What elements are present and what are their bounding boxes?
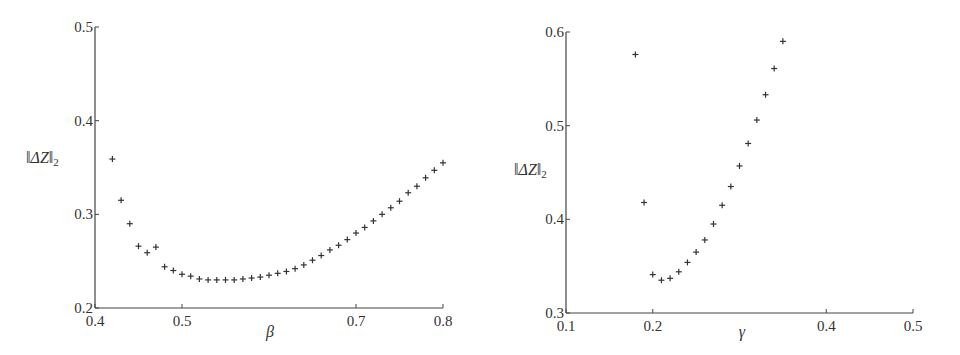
data-point [405,190,411,196]
data-point [362,224,368,230]
y-axis-label-main: ΔZ [518,161,538,178]
data-point [641,199,647,205]
data-point [118,197,124,203]
data-point [658,277,664,283]
y-tick-label: 0.5 [545,118,564,134]
data-point [702,237,708,243]
data-point [397,198,403,204]
y-axis-label-sub: 2 [541,168,547,180]
y-tick-label: 0.4 [74,113,93,129]
data-point [710,221,716,227]
x-tick-label: 0.7 [347,313,366,329]
data-point [632,51,638,57]
data-point [667,275,673,281]
data-point [109,156,115,162]
y-tick-label: 0.4 [545,211,564,227]
data-point [249,275,255,281]
x-axis-label: β [265,323,274,341]
chart-beta: 0.40.50.70.80.20.30.40.5 β ‖ΔZ‖2 [26,19,452,341]
data-point [153,244,159,250]
data-point [754,117,760,123]
data-point [275,270,281,276]
data-point [745,140,751,146]
x-tick-label: 0.4 [817,318,836,334]
data-point [728,184,734,190]
y-axis-label-main: ΔZ [30,149,50,166]
data-point [179,271,185,277]
data-point [188,273,194,279]
data-point [693,249,699,255]
data-point [650,272,656,278]
x-tick-label: 0.2 [643,318,662,334]
data-point [676,269,682,275]
data-point [318,253,324,259]
data-points [109,156,446,283]
data-point [370,218,376,224]
data-point [136,243,142,249]
data-point [162,264,168,270]
data-point [684,259,690,265]
ticks: 0.40.50.70.80.20.30.40.5 [74,19,452,329]
data-point [344,237,350,243]
ticks: 0.10.20.40.50.30.40.50.6 [545,24,922,334]
data-point [170,268,176,274]
y-axis-label: ‖ΔZ‖2 [26,149,59,168]
data-point [771,66,777,72]
y-tick-label: 0.2 [74,300,93,316]
data-point [440,160,446,166]
data-point [240,276,246,282]
data-point [780,38,786,44]
data-point [327,247,333,253]
data-point [423,175,429,181]
data-point [223,277,229,283]
y-tick-label: 0.3 [74,206,93,222]
x-tick-label: 0.5 [904,318,923,334]
data-point [196,276,202,282]
data-point [388,205,394,211]
data-point [353,230,359,236]
data-point [292,266,298,272]
data-points [632,38,785,283]
data-point [301,262,307,268]
data-point [737,163,743,169]
data-point [266,272,272,278]
y-axis-label: ‖ΔZ‖2 [514,161,547,180]
data-point [763,92,769,98]
data-point [214,277,220,283]
data-point [336,242,342,248]
x-axis-label: γ [739,323,746,341]
data-point [414,183,420,189]
data-point [431,167,437,173]
figure: 0.40.50.70.80.20.30.40.5 β ‖ΔZ‖2 0.10.20… [0,0,960,355]
data-point [205,277,211,283]
y-tick-label: 0.3 [545,305,564,321]
data-point [310,257,316,263]
y-axis-label-sub: 2 [53,156,59,168]
data-point [719,202,725,208]
data-point [144,250,150,256]
y-tick-label: 0.5 [74,19,93,35]
data-point [283,268,289,274]
data-point [257,274,263,280]
data-point [379,211,385,217]
data-point [231,277,237,283]
x-tick-label: 0.5 [173,313,192,329]
x-tick-label: 0.8 [434,313,453,329]
chart-gamma: 0.10.20.40.50.30.40.50.6 γ ‖ΔZ‖2 [514,24,922,341]
y-tick-label: 0.6 [545,24,564,40]
data-point [127,221,133,227]
